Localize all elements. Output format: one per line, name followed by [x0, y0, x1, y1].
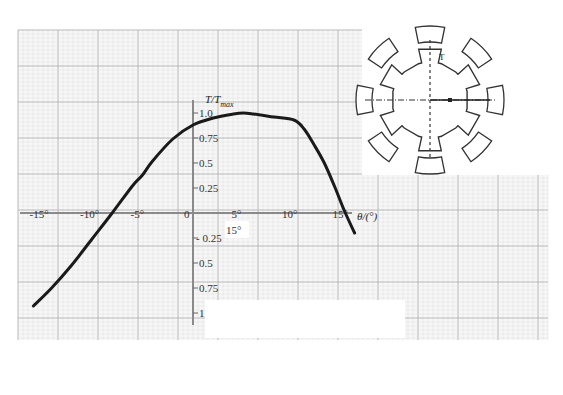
y-tick-label: 0.5 — [199, 257, 213, 269]
y-tick-label: 0.25 — [199, 182, 219, 194]
y-tick-label: 0.5 — [199, 157, 213, 169]
axis-marker — [448, 98, 452, 102]
x-tick-label: -5° — [131, 208, 145, 220]
y-tick-label: - 0.25 — [196, 232, 222, 244]
x-tick-label: 10° — [282, 208, 297, 220]
x-tick-label: 0 — [184, 208, 190, 220]
torque-angle-chart: -15°-10°-5°05°10°15° 1.00.750.50.25- 0.2… — [0, 0, 563, 395]
x-tick-label: -10° — [80, 208, 99, 220]
x-tick-label: 5° — [232, 208, 242, 220]
y-tick-label: 0.75 — [199, 282, 219, 294]
x-tick-label: -15° — [30, 208, 49, 220]
blank-patch — [205, 300, 405, 338]
annotation-15deg: 15° — [226, 224, 241, 236]
x-axis-title: θ/(°) — [357, 210, 378, 223]
y-tick-label: 0.75 — [199, 132, 219, 144]
inset-label-t: T — [439, 52, 445, 62]
